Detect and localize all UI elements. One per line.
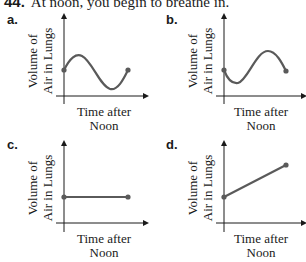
curve-a <box>64 55 128 89</box>
start-point <box>221 194 226 199</box>
svg-text:Air in Lungs: Air in Lungs <box>200 28 215 94</box>
svg-text:Volume of: Volume of <box>185 160 200 215</box>
x-axis-label-d: Time after <box>234 231 289 246</box>
graph-label-a: a. <box>7 12 18 27</box>
y-axis-label-a: Volume of <box>25 33 40 88</box>
svg-text:Volume of: Volume of <box>25 160 40 215</box>
svg-text:Noon: Noon <box>90 245 119 260</box>
curve-b <box>224 51 286 83</box>
end-point <box>283 162 288 167</box>
graph-label-d: d. <box>166 137 178 152</box>
end-point <box>283 68 288 73</box>
graph-c: c. Volume of Air in Lungs Time after Noo… <box>7 137 146 260</box>
graph-a: a. Volume of Air in Lungs Time after Noo… <box>7 12 146 133</box>
svg-text:Noon: Noon <box>247 118 276 133</box>
y-axis-label-d: Volume of <box>185 160 200 215</box>
svg-text:Air in Lungs: Air in Lungs <box>200 155 215 221</box>
x-axis-label-b: Time after <box>234 104 289 119</box>
graph-b: b. Volume of Air in Lungs Time after Noo… <box>166 12 304 133</box>
start-point <box>221 67 226 72</box>
start-point <box>61 67 66 72</box>
svg-text:Air in Lungs: Air in Lungs <box>40 28 55 94</box>
y-axis-label-b: Volume of <box>185 33 200 88</box>
y-axis-label-c: Volume of <box>25 160 40 215</box>
graph-d: d. Volume of Air in Lungs Time after Noo… <box>166 137 304 260</box>
end-point <box>125 67 130 72</box>
svg-text:Volume of: Volume of <box>25 33 40 88</box>
svg-text:Air in Lungs: Air in Lungs <box>40 155 55 221</box>
end-point <box>125 194 130 199</box>
graph-label-b: b. <box>166 12 178 27</box>
x-axis-label-a: Time after <box>77 104 132 119</box>
graphs-figure: a. Volume of Air in Lungs Time after Noo… <box>0 0 306 262</box>
x-axis-label-c: Time after <box>77 231 132 246</box>
start-point <box>61 194 66 199</box>
graph-label-c: c. <box>7 137 18 152</box>
curve-d <box>224 165 286 197</box>
svg-text:Noon: Noon <box>247 245 276 260</box>
svg-text:Volume of: Volume of <box>185 33 200 88</box>
svg-text:Noon: Noon <box>90 118 119 133</box>
